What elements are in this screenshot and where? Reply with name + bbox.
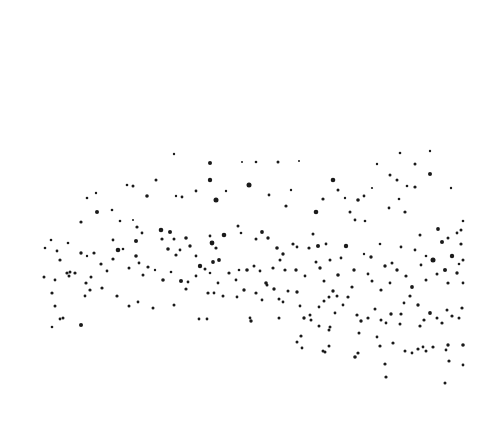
dot [315,261,318,264]
dot [92,251,95,254]
dot [245,268,249,272]
dot [217,282,220,285]
dot [296,341,299,344]
dot [179,279,183,283]
dot [379,288,382,291]
dot [440,321,443,324]
dot [342,304,345,307]
dot [403,302,406,305]
dot [444,382,447,385]
dot [283,268,286,271]
dot [173,304,176,307]
dot [411,352,414,355]
dot [425,279,428,282]
dot [238,269,241,272]
dot [307,246,310,249]
dot [266,236,269,239]
dot [331,178,336,183]
dot [217,258,221,262]
dot [304,275,307,278]
dot [318,325,321,328]
dot [399,312,402,315]
dot [198,318,201,321]
dot [408,294,411,297]
dot [68,275,71,278]
dot [43,276,46,279]
dot [166,247,170,251]
dot [161,278,165,282]
dot [128,305,131,308]
dot [359,319,362,322]
dot [302,316,305,319]
dot [188,244,191,247]
dot [414,163,417,166]
dot [86,255,88,257]
dot [316,244,320,248]
dot [380,319,383,322]
dot [259,270,262,273]
dot [328,296,331,299]
dot [247,183,252,188]
dot [99,262,102,265]
dot [137,301,140,304]
dot [208,161,212,165]
dot [95,192,97,194]
dot [209,272,212,275]
dot [181,196,184,199]
dot [436,273,439,276]
dot [132,219,134,221]
dot [440,240,444,244]
dot [398,198,401,201]
dot [389,312,392,315]
dot [160,237,163,240]
dot [356,198,360,202]
dot [179,249,182,252]
dot [222,295,225,298]
dot [354,219,357,222]
dot [174,253,177,256]
dot [50,239,53,242]
dot [363,253,365,255]
dot [79,220,82,223]
dot [142,274,145,277]
dot [458,263,461,266]
dot [249,319,252,322]
dot [237,225,240,228]
dot [309,314,312,317]
dot [413,185,416,188]
dot [420,264,423,267]
dot [206,318,209,321]
dot [358,332,361,335]
dot [404,350,407,353]
dot [419,234,422,237]
dot [135,225,138,228]
dot [324,351,327,354]
dot [450,254,454,258]
dot [446,343,449,346]
dot [462,364,465,367]
dot [138,262,141,265]
dot [170,271,173,274]
dot [222,233,227,238]
dot [331,289,334,292]
dot [443,268,447,272]
dot [255,238,258,241]
dot [458,317,461,320]
dot [461,343,465,347]
dot [329,259,332,262]
dot [225,190,227,192]
dot [294,268,297,271]
dot [400,246,403,249]
dot [460,306,463,309]
dot [314,210,319,215]
dot [241,161,243,163]
dot [59,318,62,321]
dot [399,323,402,326]
dot [462,220,465,223]
dot [383,264,386,267]
dot [242,288,245,291]
dot [146,265,149,268]
dot [51,326,54,329]
dot [446,309,449,312]
dot [344,244,348,248]
